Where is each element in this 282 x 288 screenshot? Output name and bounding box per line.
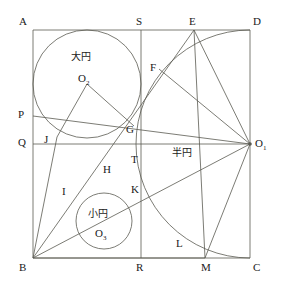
point-label-E: E [189, 16, 196, 27]
line-JB [33, 137, 57, 258]
point-label-S: S [136, 16, 142, 27]
small-circle-label: 小円 [88, 209, 108, 219]
center-label-O1-subscript: 1 [263, 144, 267, 152]
line-FO1 [159, 69, 250, 144]
point-label-P: P [18, 109, 24, 120]
semicircle-label: 半円 [172, 148, 192, 158]
line-O1M [205, 144, 250, 258]
point-label-R: R [136, 262, 143, 273]
point-label-M: M [201, 262, 211, 273]
line-BO1 [33, 144, 250, 258]
geometry-canvas [0, 0, 282, 288]
big-circle-label: 大円 [71, 52, 91, 62]
sangaku-diagram: ABCDEFGHIJKLMPQRSTO1O2O3大円小円半円 [0, 0, 282, 288]
point-label-F: F [150, 62, 156, 73]
center-label-O2-base: O [78, 72, 86, 84]
point-label-L: L [176, 238, 183, 249]
segments-layer [33, 30, 250, 258]
point-label-Q: Q [18, 137, 26, 148]
point-label-D: D [253, 16, 261, 27]
point-label-T: T [131, 154, 138, 165]
vertex-dots-layer [248, 142, 252, 146]
center-label-O2: O2 [78, 73, 89, 87]
center-label-O3: O3 [95, 228, 106, 242]
line-PO1 [33, 116, 250, 144]
point-label-B: B [19, 262, 26, 273]
point-label-G: G [126, 124, 134, 135]
center-label-O1-base: O [255, 137, 263, 149]
line-EO1 [194, 30, 250, 144]
center-label-O2-subscript: 2 [86, 79, 90, 87]
point-label-A: A [19, 16, 27, 27]
point-label-K: K [131, 184, 139, 195]
center-label-O1: O1 [255, 138, 266, 152]
line-O2J [57, 84, 87, 137]
center-label-O3-subscript: 3 [103, 234, 107, 242]
line-O2G [87, 84, 134, 126]
point-label-I: I [62, 186, 66, 197]
circles-layer [33, 30, 141, 249]
point-label-H: H [103, 164, 111, 175]
point-dot-O1 [248, 142, 252, 146]
point-label-J: J [44, 134, 48, 145]
point-label-C: C [253, 262, 260, 273]
center-label-O3-base: O [95, 227, 103, 239]
